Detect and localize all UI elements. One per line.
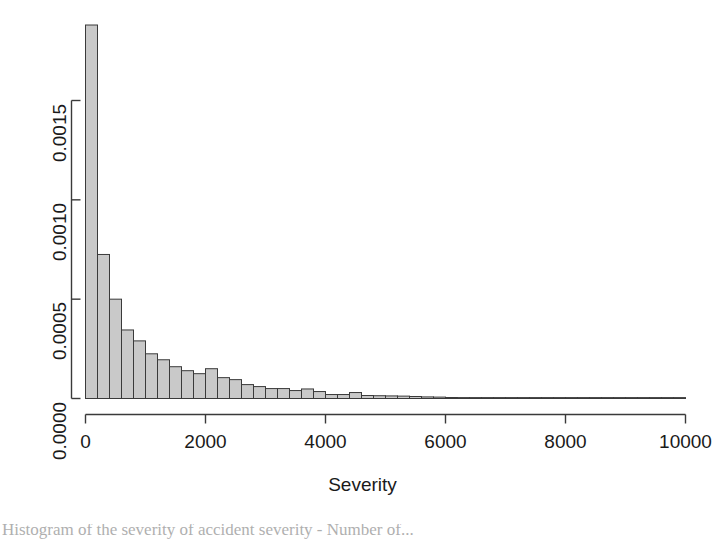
histogram-bar	[314, 392, 326, 399]
x-axis-title: Severity	[0, 474, 725, 496]
x-axis-tick-label: 2000	[184, 431, 226, 453]
histogram-bar	[290, 391, 302, 399]
histogram-bar	[554, 398, 566, 399]
histogram-bar	[650, 398, 662, 399]
histogram-bar	[158, 360, 170, 399]
histogram-bar	[194, 374, 206, 399]
histogram-bar	[614, 398, 626, 399]
histogram-bar	[98, 254, 110, 398]
histogram-bar	[122, 330, 134, 399]
y-axis-tick-label: 0.0005	[49, 300, 71, 362]
histogram-bar	[230, 380, 242, 399]
histogram-bar	[182, 371, 194, 399]
histogram-bar	[578, 398, 590, 399]
histogram-bar	[374, 396, 386, 399]
histogram-bar	[206, 369, 218, 399]
histogram-bar	[110, 299, 122, 398]
histogram-bar	[134, 341, 146, 399]
histogram-bar	[470, 398, 482, 399]
x-axis-tick-label: 10000	[659, 431, 712, 453]
plot-canvas	[0, 0, 725, 500]
histogram-bar	[530, 398, 542, 399]
histogram-bar	[254, 387, 266, 399]
histogram-bar	[86, 25, 98, 398]
histogram-bar	[542, 398, 554, 399]
histogram-bar	[326, 395, 338, 399]
histogram-bar	[638, 398, 650, 399]
histogram-bar	[626, 398, 638, 399]
histogram-bar	[398, 396, 410, 398]
histogram-bar	[566, 398, 578, 399]
histogram-bar	[170, 367, 182, 399]
x-axis-tick-label: 6000	[424, 431, 466, 453]
histogram-bar	[338, 395, 350, 399]
histogram-bar	[590, 398, 602, 399]
y-axis-tick-label: 0.0015	[49, 102, 71, 164]
y-axis-tick-label: 0.0010	[49, 201, 71, 263]
histogram-bars	[86, 25, 686, 398]
histogram-bar	[494, 398, 506, 399]
histogram-bar	[146, 354, 158, 399]
x-axis-tick-label: 4000	[304, 431, 346, 453]
histogram-bar	[674, 398, 686, 399]
histogram-bar	[278, 389, 290, 399]
histogram-bar	[302, 389, 314, 399]
histogram-bar	[434, 397, 446, 398]
figure-caption: Histogram of the severity of accident se…	[0, 524, 725, 542]
histogram-plot	[0, 0, 725, 500]
x-axis	[86, 415, 686, 424]
histogram-bar	[506, 398, 518, 399]
histogram-bar	[362, 396, 374, 399]
histogram-bar	[410, 397, 422, 399]
histogram-bar	[458, 398, 470, 399]
y-axis	[72, 101, 81, 399]
y-axis-tick-label: 0.0000	[49, 400, 71, 462]
histogram-bar	[386, 396, 398, 399]
histogram-bar	[602, 398, 614, 399]
figure-container: 0.00000.00050.00100.0015 020004000600080…	[0, 0, 725, 542]
histogram-bar	[266, 389, 278, 399]
histogram-bar	[350, 393, 362, 399]
histogram-bar	[662, 398, 674, 399]
histogram-bar	[218, 378, 230, 399]
figure-caption-text: Histogram of the severity of accident se…	[2, 524, 723, 540]
histogram-bar	[518, 398, 530, 399]
histogram-bar	[422, 397, 434, 399]
histogram-bar	[482, 398, 494, 399]
histogram-bar	[446, 398, 458, 399]
x-axis-tick-label: 0	[80, 431, 91, 453]
histogram-bar	[242, 385, 254, 399]
x-axis-tick-label: 8000	[544, 431, 586, 453]
